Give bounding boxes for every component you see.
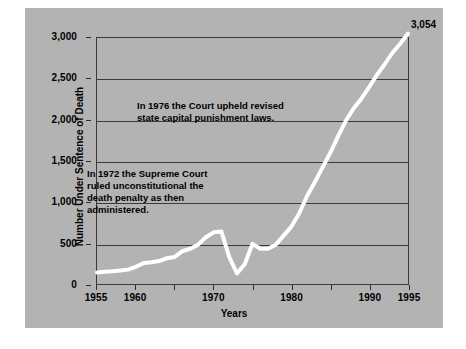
y-axis-tick-label: 500: [60, 238, 77, 249]
x-axis-tick-label: 1990: [359, 292, 382, 303]
y-axis-tick-label: 1,000: [51, 196, 77, 207]
y-axis-tick-labels: 05001,0001,5002,0002,5003,000: [25, 8, 91, 328]
x-axis-tick-label: 1960: [124, 292, 147, 303]
x-axis-tick-label: 1970: [202, 292, 225, 303]
annotation-1976: In 1976 the Court upheld revised state c…: [137, 100, 284, 124]
plot-area: [96, 37, 409, 285]
y-axis-tick-mark: [86, 285, 91, 286]
y-axis-tick-label: 3,000: [51, 31, 77, 42]
y-axis-tick-mark: [86, 244, 91, 245]
y-axis-tick-mark: [86, 37, 91, 38]
x-axis-tick-mark: [213, 285, 214, 290]
x-axis-tick-label: 1955: [85, 292, 108, 303]
chart-figure: Number Under Sentence of Death 05001,000…: [25, 8, 443, 328]
x-axis-tick-label: 1980: [280, 292, 303, 303]
x-axis-tick-marks: [96, 285, 409, 291]
x-axis-tick-mark: [331, 285, 332, 290]
x-axis-tick-mark: [409, 285, 410, 290]
x-axis-tick-mark: [174, 285, 175, 290]
y-axis-tick-mark: [86, 161, 91, 162]
x-axis-tick-mark: [292, 285, 293, 290]
y-axis-tick-mark: [86, 78, 91, 79]
endpoint-value-label: 3,054: [411, 19, 436, 30]
x-axis-tick-mark: [135, 285, 136, 290]
x-axis-title: Years: [25, 308, 443, 319]
y-axis-tick-label: 0: [71, 279, 77, 290]
x-axis-tick-mark: [253, 285, 254, 290]
data-series-line: [97, 38, 408, 284]
y-axis-tick-label: 2,000: [51, 114, 77, 125]
x-axis-tick-label: 1995: [398, 292, 421, 303]
x-axis-tick-mark: [96, 285, 97, 290]
y-axis-tick-label: 2,500: [51, 72, 77, 83]
y-axis-tick-mark: [86, 120, 91, 121]
x-axis-tick-mark: [370, 285, 371, 290]
annotation-1972: In 1972 the Supreme Court ruled unconsti…: [87, 168, 207, 216]
y-axis-tick-label: 1,500: [51, 155, 77, 166]
